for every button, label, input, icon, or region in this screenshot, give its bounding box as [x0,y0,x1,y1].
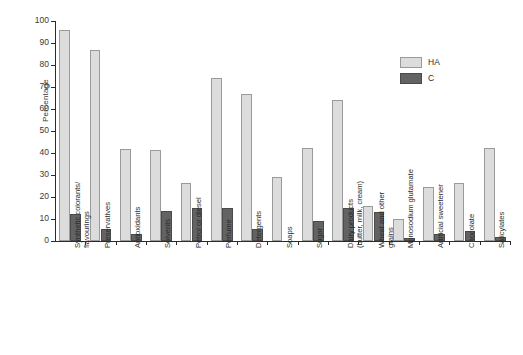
legend-item: C [400,71,440,85]
chart-legend: HAC [400,55,440,87]
bar-group [302,21,324,241]
x-category-label: Antioxidants [134,207,143,248]
bar-ha [181,183,192,241]
bar-chart-figure: Percentage 0102030405060708090100 Synthe… [0,0,523,355]
bar-ha [211,78,222,241]
y-tick-label: 90 [40,37,49,47]
bar-group [272,21,294,241]
bar-ha [484,148,495,242]
y-tick-label: 20 [40,191,49,201]
bar-ha [90,50,101,241]
bar-group [241,21,263,241]
x-tick-mark [510,241,511,245]
x-tick-mark [267,241,268,245]
y-tick-label: 10 [40,213,49,223]
y-tick-label: 80 [40,59,49,69]
x-category-label: Detergents [255,211,264,248]
x-tick-mark [237,241,238,245]
bar-ha [241,94,252,241]
x-tick-mark [116,241,117,245]
y-tick-label: 0 [44,235,49,245]
x-tick-mark [328,241,329,245]
x-category-label: Wheat and other grains [378,192,395,248]
x-tick-mark [419,241,420,245]
legend-label: C [428,73,434,83]
y-tick-label: 30 [40,169,49,179]
x-category-label: Preservatives [104,202,113,248]
bar-ha [120,149,131,241]
y-tick-label: 70 [40,81,49,91]
x-category-label: Salicylates [498,212,507,248]
x-category-label: Sugar [316,228,325,248]
x-tick-mark [176,241,177,245]
x-tick-mark [480,241,481,245]
x-category-label: Monosodium glutamate [407,169,416,248]
bar-group [150,21,172,241]
bar-ha [150,150,161,241]
x-tick-mark [146,241,147,245]
bar-group [211,21,233,241]
bar-ha [272,177,283,241]
bar-ha [363,206,374,241]
x-category-label: Synthetic colorants/ flavourings [74,182,91,248]
legend-item: HA [400,55,440,69]
bar-group [484,21,506,241]
bar-ha [423,187,434,241]
bar-ha [59,30,70,241]
y-tick-label: 60 [40,103,49,113]
legend-swatch-ha [400,57,422,68]
bar-ha [332,100,343,241]
legend-swatch-c [400,73,422,84]
y-tick-label: 40 [40,147,49,157]
bar-ha [302,148,313,242]
x-category-label: Artificial sweetener [437,184,446,248]
x-tick-mark [449,241,450,245]
x-tick-mark [207,241,208,245]
x-category-label: Dairy products (butter, milk, cream) [347,181,364,248]
x-category-label: Soaps [286,226,295,248]
y-tick-mark [51,241,55,242]
legend-label: HA [428,57,440,67]
bar-group [454,21,476,241]
x-category-label: Perfume [225,219,234,248]
x-category-label: Chocolate [468,214,477,248]
bar-ha [454,183,465,241]
x-category-label: Petrol or diesel [195,197,204,248]
y-tick-label: 50 [40,125,49,135]
x-tick-mark [298,241,299,245]
y-tick-label: 100 [35,15,49,25]
x-category-label: Solvents [164,219,173,248]
